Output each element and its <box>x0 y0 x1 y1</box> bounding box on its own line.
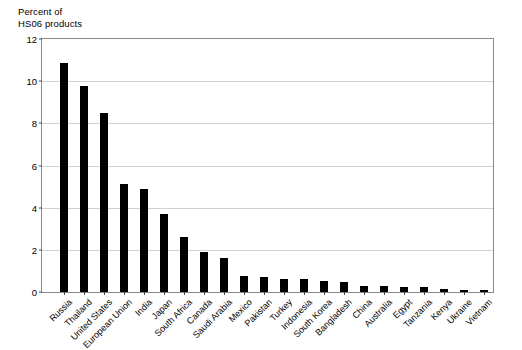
bars-layer <box>42 39 493 292</box>
bar <box>320 281 328 292</box>
bar <box>220 258 228 292</box>
bar <box>140 189 148 292</box>
bar <box>260 277 268 292</box>
y-tick-label: 6 <box>32 160 37 171</box>
bar <box>120 184 128 292</box>
x-axis-labels: RussiaThailandUnited StatesEuropean Unio… <box>41 294 494 346</box>
plot-area: 024681012 <box>41 38 494 293</box>
y-tick-label: 12 <box>26 34 37 45</box>
bar <box>180 237 188 292</box>
y-tick-label: 4 <box>32 202 37 213</box>
bar <box>200 252 208 292</box>
bar <box>160 214 168 292</box>
y-tick-label: 0 <box>32 287 37 298</box>
bar <box>60 63 68 292</box>
bar <box>340 282 348 292</box>
y-tick-label: 10 <box>26 76 37 87</box>
y-axis-title: Percent of HS06 products <box>18 6 82 29</box>
bar <box>240 276 248 292</box>
y-tick-label: 8 <box>32 118 37 129</box>
bar <box>100 113 108 292</box>
bar <box>300 279 308 292</box>
y-tick-label: 2 <box>32 244 37 255</box>
bar <box>280 279 288 292</box>
bar <box>80 86 88 292</box>
